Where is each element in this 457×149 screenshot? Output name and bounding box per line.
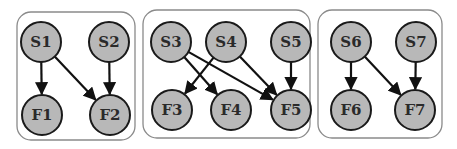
node-s2: S2 xyxy=(89,22,129,62)
node-label: F4 xyxy=(220,101,241,119)
node-s6: S6 xyxy=(331,22,371,62)
node-label: F7 xyxy=(404,101,425,119)
node-s7: S7 xyxy=(396,22,436,62)
node-label: S1 xyxy=(30,33,51,51)
node-f1: F1 xyxy=(22,95,62,135)
bipartite-diagram: S1S2F1F2S3S4S5F3F4F5S6S7F6F7 xyxy=(0,0,457,149)
node-label: F5 xyxy=(280,101,301,119)
node-label: F1 xyxy=(31,106,52,124)
node-f5: F5 xyxy=(271,90,311,130)
node-label: S2 xyxy=(98,33,119,51)
node-f6: F6 xyxy=(331,90,371,130)
node-label: F2 xyxy=(99,106,120,124)
node-f2: F2 xyxy=(90,95,130,135)
node-s4: S4 xyxy=(206,22,246,62)
node-label: S7 xyxy=(405,33,426,51)
node-s5: S5 xyxy=(271,22,311,62)
node-label: S6 xyxy=(340,33,361,51)
node-s1: S1 xyxy=(21,22,61,62)
node-f7: F7 xyxy=(395,90,435,130)
node-label: S5 xyxy=(280,33,301,51)
node-label: S3 xyxy=(160,33,181,51)
node-label: F6 xyxy=(340,101,361,119)
node-label: F3 xyxy=(161,101,182,119)
node-label: S4 xyxy=(215,33,236,51)
node-f3: F3 xyxy=(152,90,192,130)
node-s3: S3 xyxy=(151,22,191,62)
node-f4: F4 xyxy=(211,90,251,130)
